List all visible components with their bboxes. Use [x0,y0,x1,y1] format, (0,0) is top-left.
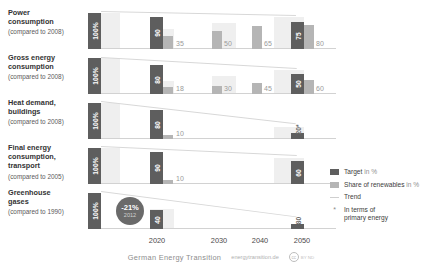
target-label-2020: 80 [153,121,160,128]
trend-line [101,101,296,124]
renewables-label-2020: 10 [176,175,184,182]
target-bar-2020: 90 [150,152,163,184]
creative-commons-badge: cc BY ND [289,252,314,262]
cc-license-text: BY ND [301,255,314,260]
target-bar-2020: 80 [150,110,163,139]
legend-label-renewables: Share of renewables in % [344,181,419,189]
renewables-bar-2040 [252,26,262,49]
row-label-power-consumption: Power consumption (compared to 2008) [8,8,86,37]
footer-url[interactable]: energytransition.de [231,254,279,260]
legend-label-target: Target in % [344,168,377,176]
renewables-bar-2030 [212,31,222,49]
row-title-line1: Greenhouse [8,188,51,197]
footnote-line1: In terms of [344,206,375,213]
renewables-bar-2040 [252,83,262,94]
row-title-line1: Heat demand, [8,98,56,107]
renewables-bar-2020 [163,36,173,49]
trend-line [101,57,297,69]
row-label-greenhouse-gases: Greenhouse gases (compared to 1990) [8,188,86,217]
row-title-line2: consumption [8,17,54,26]
row-title-line2: consumption [8,62,54,71]
bar-100-percent: 100% [88,148,101,184]
legend-label-footnote: In terms ofprimary energy [344,206,388,222]
badge-2012-reduction: -21% 2012 [116,197,144,225]
x-tick-2030: 2030 [211,236,227,245]
chart-row-gross-energy-consumption: Gross energy consumption (compared to 20… [0,53,442,98]
row-subtitle: (compared to 2005) [8,172,86,181]
target-bar-2050: 60 [291,161,304,184]
row-title-line2: consumption, [8,152,56,161]
bar-100-percent: 100% [88,13,101,49]
asterisk-icon: * [330,207,339,213]
renewables-bar-2030 [212,86,222,94]
bar-100-label: 100% [91,202,98,220]
row-title-line3: transport [8,161,40,170]
renewables-bar-2020 [163,180,173,184]
row-label-heat-demand-buildings: Heat demand, buildings (compared to 2008… [8,98,86,127]
legend-item-target: Target in % [330,168,438,176]
trend-line [101,146,297,156]
target-bar-2050: 20* [291,133,304,139]
target-label-2050: 80 [294,217,301,224]
legend-renewables-unit: in % [406,181,419,188]
x-tick-2050: 2050 [294,236,310,245]
legend-item-trend: Trend [330,193,438,201]
target-label-2050: 50 [294,80,301,87]
target-bar-2020: 90 [150,17,163,49]
chart-row-heat-demand-buildings: Heat demand, buildings (compared to 2008… [0,98,442,143]
row-label-final-energy-transport: Final energy consumption, transport (com… [8,143,86,181]
target-bar-2050: 50 [291,74,304,94]
plot-area-final-energy-transport: 100% 90 10 60 [88,143,338,188]
renewables-label-2020: 10 [176,130,184,137]
renewables-label-2040: 65 [264,40,272,47]
plot-area-power-consumption: 100% 90 35 50 65 75 80 [88,8,338,53]
renewables-swatch-icon [330,182,339,188]
badge-year: 2012 [124,213,136,219]
renewables-label-2040: 45 [264,85,272,92]
target-label-2020: 40 [153,216,160,223]
infographic-root: Power consumption (compared to 2008) 100… [0,0,442,273]
renewables-label-2020: 35 [176,40,184,47]
target-label-2050: 20* [294,125,301,135]
bar-100-percent: 100% [88,58,101,94]
row-title-line1: Power [8,8,30,17]
renewables-bar-2020 [163,87,173,94]
renewables-label-2030: 30 [224,85,232,92]
row-title-line1: Gross energy [8,53,55,62]
plot-area-heat-demand-buildings: 100% 80 10 20* [88,98,338,143]
renewables-label-2050: 80 [316,40,324,47]
row-label-gross-energy-consumption: Gross energy consumption (compared to 20… [8,53,86,82]
target-bar-2050: 75 [291,22,304,49]
footer: German Energy Transition energytransitio… [0,252,442,262]
row-title-line2: buildings [8,107,40,116]
renewables-bar-2050 [304,80,314,94]
target-bar-2020: 80 [150,65,163,94]
target-label-2020: 90 [153,164,160,171]
row-subtitle: (compared to 2008) [8,117,86,126]
bar-100-label: 100% [91,112,98,130]
row-title-line2: gases [8,197,29,206]
target-label-2020: 80 [153,76,160,83]
legend-item-renewables: Share of renewables in % [330,181,438,189]
row-subtitle: (compared to 2008) [8,27,86,36]
x-axis: 2020 2030 2040 2050 [88,236,338,248]
bar-100-percent: 100% [88,193,101,229]
bar-100-label: 100% [91,157,98,175]
footnote-line2: primary energy [344,214,388,221]
row-title-line1: Final energy [8,143,51,152]
plot-area-greenhouse-gases: 100% -21% 2012 40 80 [88,188,338,233]
target-swatch-icon [330,169,339,175]
renewables-label-2020: 18 [176,85,184,92]
bar-100-label: 100% [91,22,98,40]
renewables-label-2030: 50 [224,40,232,47]
plot-area-gross-energy-consumption: 100% 80 18 30 45 50 60 [88,53,338,98]
trend-line [101,11,296,16]
row-subtitle: (compared to 1990) [8,207,86,216]
target-bar-2050: 80 [291,224,304,229]
renewables-label-2050: 60 [316,85,324,92]
target-label-2050: 75 [294,32,301,39]
footer-title: German Energy Transition [128,253,221,262]
chart-row-power-consumption: Power consumption (compared to 2008) 100… [0,8,442,53]
renewables-bar-2050 [304,25,314,49]
trend-line-icon [330,197,339,198]
